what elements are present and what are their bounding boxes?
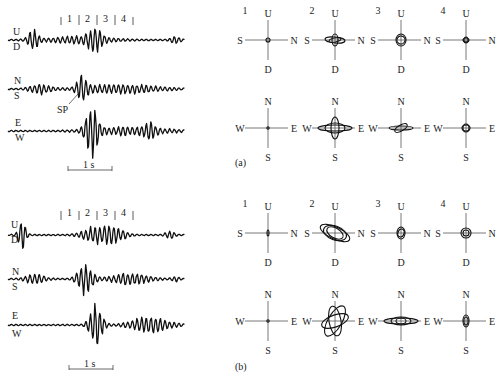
axis-label-right: E	[489, 316, 495, 327]
component-label-n: N	[14, 75, 21, 86]
axis-label-right: N	[290, 228, 297, 239]
panel-b-seismograms: 1 2 3 4 U D N S E W 1 s	[8, 207, 184, 370]
window-mark-3: 3	[103, 13, 108, 24]
axis-label-down: D	[397, 64, 404, 75]
hodogram-a-vertical-4: UDSN4	[435, 5, 495, 75]
axis-label-left: W	[368, 316, 378, 327]
axis-label-down: S	[265, 345, 271, 356]
window-mark-2-b: 2	[85, 207, 90, 218]
trace-ew-b	[8, 303, 184, 343]
panel-a-seismograms: 1 2 3 4 U D N S SP E W 1 s	[8, 13, 184, 171]
axis-label-down: D	[331, 257, 338, 268]
window-mark-3-b: 3	[103, 207, 108, 218]
axis-label-left: S	[237, 228, 243, 239]
axis-label-down: D	[462, 257, 469, 268]
axis-label-down: S	[332, 345, 338, 356]
hodogram-b-vertical-4: UDSN4	[435, 198, 495, 268]
hodogram-index: 4	[441, 5, 446, 16]
axis-label-up: U	[462, 8, 470, 19]
axis-label-right: E	[358, 123, 364, 134]
axis-label-right: E	[358, 316, 364, 327]
axis-label-down: D	[264, 64, 271, 75]
hodogram-index: 3	[376, 198, 381, 209]
hodogram-index: 4	[441, 198, 446, 209]
axis-label-right: E	[291, 316, 297, 327]
hodogram-a-horizontal-4: NSWE	[433, 96, 495, 163]
hodogram-b-horizontal-3: NSWE	[368, 289, 430, 356]
component-label-w: W	[15, 132, 25, 143]
axis-label-up: N	[397, 96, 404, 107]
axis-label-right: E	[424, 316, 430, 327]
axis-label-right: N	[357, 35, 364, 46]
scale-bar-label-b: 1 s	[84, 358, 96, 369]
axis-label-right: N	[423, 35, 430, 46]
hodogram-b-vertical-2: UDSN2	[304, 198, 364, 268]
axis-label-right: E	[291, 123, 297, 134]
axis-label-up: U	[264, 8, 272, 19]
axis-label-left: S	[435, 35, 441, 46]
axis-label-up: N	[264, 96, 271, 107]
axis-label-left: S	[237, 35, 243, 46]
axis-label-left: W	[302, 316, 312, 327]
axis-label-right: N	[357, 228, 364, 239]
axis-label-down: S	[463, 152, 469, 163]
component-label-s-b: S	[12, 281, 18, 292]
component-label-n-b: N	[12, 266, 19, 277]
axis-label-left: W	[368, 123, 378, 134]
axis-label-down: S	[398, 152, 404, 163]
axis-label-right: N	[488, 228, 495, 239]
component-label-e-b: E	[12, 310, 18, 321]
axis-label-left: S	[304, 35, 310, 46]
axis-label-down: D	[264, 257, 271, 268]
axis-label-down: D	[397, 257, 404, 268]
axis-label-up: U	[397, 201, 405, 212]
axis-label-left: W	[433, 316, 443, 327]
axis-label-right: N	[488, 35, 495, 46]
axis-label-up: U	[331, 8, 339, 19]
axis-label-up: U	[264, 201, 272, 212]
hodogram-a-vertical-2: UDSN2	[304, 5, 364, 75]
panel-label-b: (b)	[235, 361, 247, 373]
hodogram-b-horizontal-2: NSWE	[302, 289, 364, 356]
trace-ns-a	[8, 75, 184, 100]
component-label-u-b: U	[11, 219, 19, 230]
component-label-d: D	[13, 41, 20, 52]
hodogram-b-vertical-3: UDSN3	[370, 198, 430, 268]
hodogram-a-vertical-3: UDSN3	[370, 5, 430, 75]
component-label-w-b: W	[12, 328, 22, 339]
axis-label-down: S	[463, 345, 469, 356]
axis-label-left: W	[235, 316, 245, 327]
hodogram-b-horizontal-1: NSWE	[235, 289, 297, 356]
axis-label-left: S	[304, 228, 310, 239]
hodogram-index: 2	[310, 5, 315, 16]
axis-label-up: N	[331, 289, 338, 300]
window-mark-2: 2	[85, 13, 90, 24]
axis-label-left: S	[370, 35, 376, 46]
axis-label-left: S	[435, 228, 441, 239]
hodogram-a-horizontal-3: NSWE	[368, 96, 430, 163]
hodogram-index: 1	[243, 198, 248, 209]
seismic-figure: 1 2 3 4 U D N S SP E W 1 s 1 2 3 4 U D	[0, 0, 502, 388]
window-mark-1-b: 1	[67, 207, 72, 218]
axis-label-down: S	[265, 152, 271, 163]
hodogram-index: 1	[243, 5, 248, 16]
axis-label-down: S	[332, 152, 338, 163]
axis-label-left: W	[235, 123, 245, 134]
axis-label-down: D	[462, 64, 469, 75]
axis-label-left: S	[370, 228, 376, 239]
trace-ns-b	[8, 265, 184, 296]
axis-label-up: N	[397, 289, 404, 300]
sp-annotation: SP	[57, 104, 69, 115]
window-mark-4-b: 4	[121, 207, 126, 218]
axis-label-up: U	[331, 201, 339, 212]
component-label-s: S	[14, 90, 20, 101]
axis-label-right: N	[290, 35, 297, 46]
trace-vertical-b	[8, 224, 184, 248]
hodogram-a-horizontal-2: NSWE	[302, 96, 364, 163]
scale-bar-label-a: 1 s	[83, 159, 95, 170]
hodogram-b-horizontal-4: NSWE	[433, 289, 495, 356]
component-label-e: E	[15, 117, 21, 128]
hodogram-a-horizontal-1: NSWE	[235, 96, 297, 163]
hodogram-grid: UDSN1UDSN2UDSN3UDSN4NSWENSWENSWENSWEUDSN…	[235, 5, 495, 356]
axis-label-right: E	[489, 123, 495, 134]
